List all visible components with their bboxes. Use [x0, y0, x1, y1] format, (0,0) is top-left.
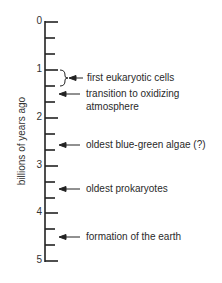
event-oxidizing-atmosphere-line1: transition to oxidizing: [86, 88, 179, 100]
event-first-eukaryotic-cells: first eukaryotic cells: [87, 72, 174, 84]
event-oldest-blue-green-algae: oldest blue-green algae (?): [86, 139, 206, 151]
event-oldest-prokaryotes: oldest prokaryotes: [86, 183, 168, 195]
event-oxidizing-atmosphere-line2: atmosphere: [86, 101, 139, 113]
event-formation-of-earth: formation of the earth: [86, 231, 181, 243]
